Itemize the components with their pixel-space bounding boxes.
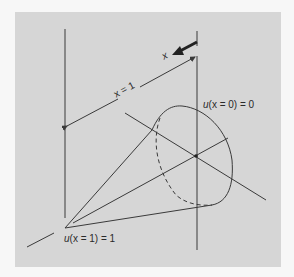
cone-edge-bottom [65, 205, 212, 228]
dimension-line-left [67, 99, 118, 126]
x-direction-arrow-shaft [180, 42, 197, 51]
boundary-bottom-rest: (x = 1) = 1 [70, 233, 116, 244]
boundary-top-rest: (x = 0) = 0 [209, 99, 255, 110]
boundary-bottom-label: u(x = 1) = 1 [64, 233, 115, 244]
cross-line-ascending [73, 138, 228, 223]
center-point [194, 154, 198, 158]
axis-extension-line [27, 233, 54, 247]
dimension-line-right [140, 57, 195, 87]
cone-edge-top [65, 130, 152, 228]
cone-diagram [0, 0, 294, 277]
cone-base-ellipse [152, 106, 232, 205]
boundary-top-label: u(x = 0) = 0 [203, 99, 254, 110]
